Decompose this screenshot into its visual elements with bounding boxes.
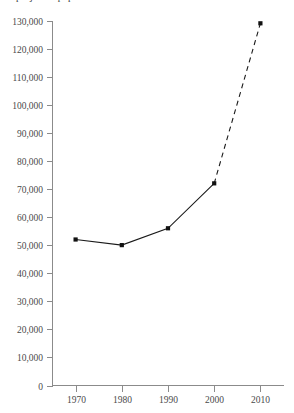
data-point-marker (74, 237, 78, 241)
x-tick-label: 2010 (251, 395, 270, 405)
y-tick-label: 100,000 (12, 101, 43, 111)
y-tick-label: 120,000 (12, 45, 43, 55)
y-tick-label: 130,000 (12, 17, 43, 27)
chart-figure: projected population 010,00020,00030,000… (0, 0, 294, 413)
y-tick-label: 20,000 (17, 325, 43, 335)
y-tick-label: 110,000 (12, 73, 43, 83)
y-tick-label: 80,000 (17, 157, 43, 167)
y-tick-label: 30,000 (17, 297, 43, 307)
series-line-actual (76, 183, 215, 245)
data-point-marker (166, 226, 170, 230)
x-tick-label: 2000 (205, 395, 224, 405)
y-tick-label: 40,000 (17, 269, 43, 279)
data-point-markers (74, 21, 263, 247)
y-tick-label: 90,000 (17, 129, 43, 139)
series-line-projected (214, 23, 260, 183)
y-tick-label: 50,000 (17, 241, 43, 251)
x-axis-ticks: 19701980199020002010 (67, 386, 270, 406)
y-axis-ticks: 010,00020,00030,00040,00050,00060,00070,… (12, 17, 52, 392)
y-tick-label: 0 (38, 382, 43, 392)
line-chart-plot: 010,00020,00030,00040,00050,00060,00070,… (0, 0, 294, 413)
x-tick-label: 1990 (159, 395, 178, 405)
x-tick-label: 1980 (113, 395, 132, 405)
data-point-marker (212, 181, 216, 185)
data-point-marker (258, 21, 262, 25)
x-tick-label: 1970 (67, 395, 86, 405)
y-tick-label: 10,000 (17, 353, 43, 363)
data-series-layer (76, 23, 261, 245)
y-tick-label: 70,000 (17, 185, 43, 195)
y-tick-label: 60,000 (17, 213, 43, 223)
data-point-marker (120, 243, 124, 247)
